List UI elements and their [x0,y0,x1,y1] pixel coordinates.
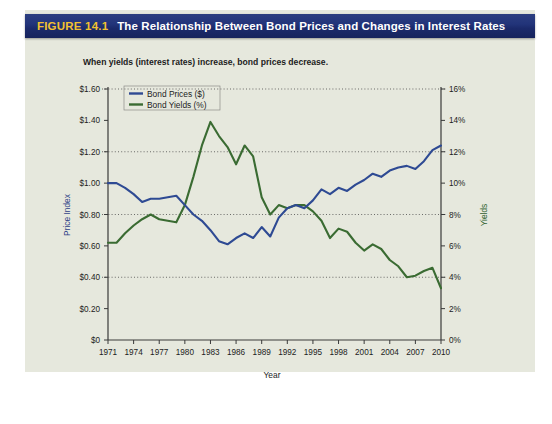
y-axis-left-ticks: $0$0.20$0.40$0.60$0.80$1.00$1.20$1.40$1.… [80,85,109,345]
y-axis-right-tick-label: 12% [449,148,465,157]
legend-label-bond-prices: Bond Prices ($) [147,89,205,99]
y-axis-left-tick-label: $0.60 [80,242,101,251]
x-axis-tick-label: 1980 [176,348,195,357]
y-axis-left-tick-label: $1.40 [80,116,101,125]
x-axis-tick-label: 1977 [150,348,169,357]
y-axis-right-title: Yields [479,204,489,227]
x-axis-tick-label: 1995 [304,348,323,357]
figure-root: FIGURE 14.1 The Relationship Between Bon… [0,0,552,424]
y-axis-right-tick-label: 10% [449,179,465,188]
legend-label-bond-yields: Bond Yields (%) [147,100,207,110]
series-line-bond-yields [108,122,441,288]
x-axis-tick-label: 2004 [381,348,400,357]
chart-legend: Bond Prices ($) Bond Yields (%) [124,86,220,110]
x-axis-tick-label: 1998 [329,348,348,357]
y-axis-left-tick-label: $0.40 [80,273,101,282]
x-axis-title: Year [264,370,281,380]
x-axis-tick-label: 2001 [355,348,374,357]
x-axis-tick-label: 2010 [432,348,451,357]
y-axis-right-tick-label: 2% [449,305,461,314]
x-axis-tick-label: 1983 [201,348,220,357]
x-axis-tick-label: 1974 [125,348,144,357]
y-axis-left-tick-label: $1.00 [80,179,101,188]
y-axis-right-tick-label: 16% [449,85,465,94]
series-line-bond-prices [108,145,441,244]
gridlines [102,89,447,277]
x-axis-tick-label: 1992 [278,348,297,357]
y-axis-left-tick-label: $0.80 [80,211,101,220]
y-axis-right-ticks: 0%2%4%6%8%10%12%14%16% [441,85,465,345]
y-axis-left-tick-label: $1.60 [80,85,101,94]
x-axis-tick-label: 2007 [406,348,425,357]
chart-plot-area: $0$0.20$0.40$0.60$0.80$1.00$1.20$1.40$1.… [0,0,552,424]
y-axis-right-tick-label: 0% [449,336,461,345]
x-axis-tick-label: 1989 [253,348,272,357]
y-axis-left-tick-label: $1.20 [80,148,101,157]
x-axis-tick-label: 1971 [99,348,118,357]
x-axis-tick-label: 1986 [227,348,246,357]
y-axis-right-tick-label: 8% [449,211,461,220]
y-axis-right-tick-label: 6% [449,242,461,251]
y-axis-right-tick-label: 4% [449,273,461,282]
y-axis-right-tick-label: 14% [449,116,465,125]
y-axis-left-title: Price Index [62,193,72,236]
y-axis-left-tick-label: $0.20 [80,305,101,314]
y-axis-left-tick-label: $0 [91,336,101,345]
x-axis-ticks: 1971197419771980198319861989199219951998… [99,340,451,357]
